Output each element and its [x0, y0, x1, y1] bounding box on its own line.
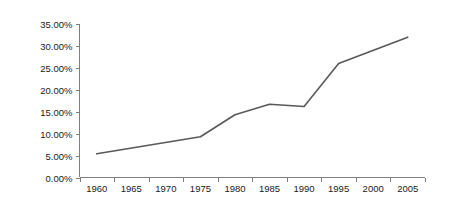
x-tick-label: 1990 [294, 183, 315, 194]
y-tick-label: 35.00% [40, 19, 73, 30]
x-tick-label: 2000 [363, 183, 384, 194]
y-tick-label: 0.00% [46, 173, 73, 184]
x-tick-label: 2005 [397, 183, 418, 194]
x-tick-label: 1960 [86, 183, 107, 194]
y-tick-label: 20.00% [40, 85, 73, 96]
x-tick-label: 1995 [328, 183, 349, 194]
y-tick-label: 15.00% [40, 107, 73, 118]
x-tick-label: 1975 [190, 183, 211, 194]
x-tick-label: 1980 [224, 183, 245, 194]
chart-canvas: 0.00%5.00%10.00%15.00%20.00%25.00%30.00%… [0, 0, 454, 217]
y-tick-label: 25.00% [40, 63, 73, 74]
y-tick-label: 30.00% [40, 41, 73, 52]
y-tick-label: 10.00% [40, 129, 73, 140]
x-tick-label: 1970 [155, 183, 176, 194]
x-tick-label: 1965 [121, 183, 142, 194]
y-tick-label: 5.00% [46, 151, 73, 162]
x-tick-label: 1985 [259, 183, 280, 194]
line-chart: 0.00%5.00%10.00%15.00%20.00%25.00%30.00%… [0, 0, 454, 217]
